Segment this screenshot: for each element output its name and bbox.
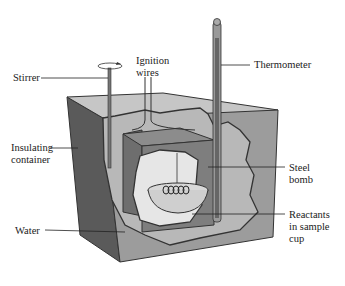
insulating-container-label-line1: Insulating <box>11 142 53 154</box>
reactants-label-line2: in sample <box>289 221 330 233</box>
stirrer-rod <box>108 68 111 168</box>
ignition-wires-label-line2: wires <box>136 67 159 79</box>
ignition-wires-label-line1: Ignition <box>136 55 169 67</box>
reactants-label-line1: Reactants <box>289 209 330 221</box>
insulating-container-label-line2: container <box>11 154 50 166</box>
thermometer <box>213 19 221 223</box>
bomb-calorimeter-diagram: Stirrer Ignition wires Thermometer Insul… <box>0 0 345 286</box>
stirrer-label: Stirrer <box>13 72 40 84</box>
steel-bomb-label-line2: bomb <box>289 174 313 186</box>
steel-bomb-label-line1: Steel <box>289 162 310 174</box>
reactants-label-line3: cup <box>289 233 304 245</box>
water-label: Water <box>15 225 40 237</box>
thermometer-label: Thermometer <box>254 59 311 71</box>
